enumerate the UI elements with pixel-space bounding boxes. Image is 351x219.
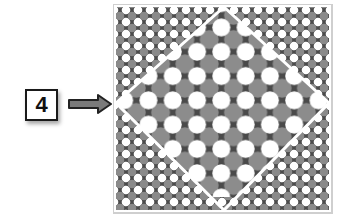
- step-number: 4: [35, 94, 47, 116]
- right-arrow-icon: [68, 94, 112, 114]
- lattice-figure: [113, 4, 335, 216]
- step-number-box: 4: [25, 89, 58, 121]
